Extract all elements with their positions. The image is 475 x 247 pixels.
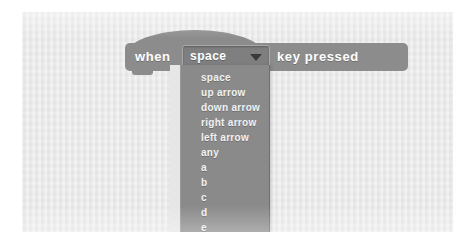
list-item[interactable]: c	[181, 190, 269, 205]
key-dropdown-selected-value: space	[190, 49, 227, 64]
block-connector-notch	[132, 69, 153, 75]
menu-gutter	[170, 65, 180, 232]
block-label-key-pressed: key pressed	[277, 48, 359, 66]
key-dropdown-menu[interactable]: space up arrow down arrow right arrow le…	[180, 65, 270, 232]
chevron-down-icon[interactable]	[250, 54, 262, 61]
list-item[interactable]: right arrow	[181, 115, 269, 130]
workspace-canvas: when key pressed space space up arrow do…	[22, 12, 453, 232]
list-item[interactable]: space	[181, 70, 269, 85]
block-label-when: when	[135, 48, 171, 66]
list-item[interactable]: left arrow	[181, 130, 269, 145]
list-item[interactable]: e	[181, 220, 269, 232]
list-item[interactable]: any	[181, 145, 269, 160]
key-dropdown-option-list: space up arrow down arrow right arrow le…	[181, 70, 269, 232]
list-item[interactable]: d	[181, 205, 269, 220]
list-item[interactable]: up arrow	[181, 85, 269, 100]
screenshot-page: when key pressed space space up arrow do…	[0, 0, 475, 247]
list-item[interactable]: a	[181, 160, 269, 175]
script-area: when key pressed space space up arrow do…	[22, 12, 453, 232]
list-item[interactable]: down arrow	[181, 100, 269, 115]
list-item[interactable]: b	[181, 175, 269, 190]
